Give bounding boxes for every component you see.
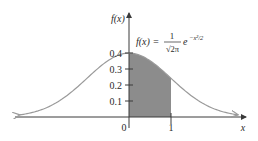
formula-label: f(x) = 1 √2π e −x²/2 xyxy=(136,31,204,54)
y-tick-label: 0.1 xyxy=(110,96,123,107)
shaded-area-0-to-1 xyxy=(129,53,171,117)
formula-denominator: √2π xyxy=(166,44,180,54)
formula-exponent: −x²/2 xyxy=(189,34,204,41)
y-tick-label: 0.3 xyxy=(110,64,123,75)
formula-numerator: 1 xyxy=(170,31,175,41)
x-axis-label: x xyxy=(240,122,246,133)
y-tick-label: 0.2 xyxy=(110,80,123,91)
y-axis-label: f(x) xyxy=(111,13,126,25)
x-tick-label: 0 xyxy=(122,122,127,133)
x-tick-label: 1 xyxy=(169,122,174,133)
normal-distribution-figure: 0.1 0.2 0.3 0.4 0 1 x f(x) f(x) = 1 √2π … xyxy=(0,0,258,141)
chart-svg: 0.1 0.2 0.3 0.4 0 1 x f(x) f(x) = 1 √2π … xyxy=(0,0,258,141)
formula-lhs: f(x) = xyxy=(136,36,159,48)
formula-exp-base: e xyxy=(183,36,188,47)
y-tick-label: 0.4 xyxy=(110,48,123,59)
